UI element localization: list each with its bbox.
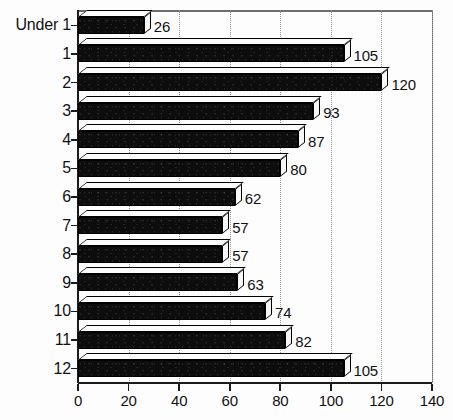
bar-chart: Under 1123456789101112 26105120938780625… — [0, 0, 453, 420]
x-tick-20 — [128, 384, 130, 391]
bar-top-face — [78, 353, 352, 360]
y-tick-11 — [71, 339, 78, 341]
bar-top-face — [78, 267, 246, 274]
y-tick-8 — [71, 253, 78, 255]
bar-side-face — [280, 154, 287, 176]
x-tick-80 — [279, 384, 281, 391]
bar-top-face — [78, 153, 289, 160]
x-tick-label-140: 140 — [409, 392, 453, 409]
y-tick-10 — [71, 311, 78, 313]
bar-value-label-6: 62 — [245, 190, 261, 207]
gridline-140 — [432, 10, 433, 383]
bar-front-face — [78, 131, 298, 148]
y-tick-label-1: 1 — [62, 45, 71, 63]
bar-front-face — [78, 189, 235, 206]
gridline-100 — [331, 10, 332, 383]
bar-value-label-5: 80 — [290, 161, 306, 178]
bar-top-face — [78, 210, 231, 217]
bar-value-label-10: 74 — [275, 304, 291, 321]
y-tick-6 — [71, 196, 78, 198]
bar-side-face — [344, 40, 351, 62]
bar-front-face — [78, 274, 237, 291]
bar-front-face — [78, 360, 344, 377]
y-tick-label-7: 7 — [62, 217, 71, 235]
bar-front-face — [78, 246, 222, 263]
y-tick-5 — [71, 168, 78, 170]
bar-top-face — [78, 10, 153, 17]
x-tick-140 — [431, 384, 433, 391]
x-tick-60 — [229, 384, 231, 391]
y-tick-label-0: Under 1 — [15, 16, 71, 34]
bar-side-face — [381, 69, 388, 91]
bar-front-face — [78, 217, 222, 234]
bar-side-face — [222, 240, 229, 262]
x-tick-100 — [330, 384, 332, 391]
bar-value-label-1: 105 — [354, 47, 378, 64]
bar-side-face — [313, 97, 320, 119]
y-tick-label-4: 4 — [62, 131, 71, 149]
bar-value-label-2: 120 — [391, 76, 415, 93]
x-tick-label-0: 0 — [55, 392, 101, 409]
y-tick-9 — [71, 282, 78, 284]
y-tick-7 — [71, 225, 78, 227]
y-tick-label-10: 10 — [54, 302, 71, 320]
y-tick-4 — [71, 139, 78, 141]
y-tick-12 — [71, 368, 78, 370]
bar-front-face — [78, 103, 313, 120]
y-tick-3 — [71, 110, 78, 112]
bar-value-label-3: 93 — [323, 104, 339, 121]
bar-side-face — [344, 355, 351, 377]
y-tick-label-9: 9 — [62, 274, 71, 292]
y-tick-label-3: 3 — [62, 102, 71, 120]
bar-front-face — [78, 74, 381, 91]
x-tick-label-20: 20 — [106, 392, 152, 409]
bar-top-face — [78, 325, 294, 332]
bar-front-face — [78, 303, 265, 320]
bar-top-face — [78, 296, 274, 303]
y-tick-2 — [71, 82, 78, 84]
bar-value-label-8: 57 — [232, 247, 248, 264]
bar-value-label-7: 57 — [232, 219, 248, 236]
bar-top-face — [78, 124, 307, 131]
x-tick-0 — [77, 384, 79, 391]
bar-value-label-4: 87 — [308, 133, 324, 150]
bar-side-face — [265, 297, 272, 319]
bar-front-face — [78, 160, 280, 177]
bar-side-face — [222, 212, 229, 234]
bar-side-face — [285, 326, 292, 348]
bar-side-face — [144, 11, 151, 33]
bar-front-face — [78, 332, 285, 349]
x-tick-label-120: 120 — [358, 392, 404, 409]
bar-top-face — [78, 67, 390, 74]
bar-value-label-12: 105 — [354, 362, 378, 379]
gridline-120 — [381, 10, 382, 383]
bar-value-label-0: 26 — [154, 18, 170, 35]
bar-side-face — [237, 269, 244, 291]
y-tick-label-6: 6 — [62, 188, 71, 206]
y-tick-label-8: 8 — [62, 245, 71, 263]
x-tick-label-60: 60 — [207, 392, 253, 409]
y-tick-label-12: 12 — [54, 360, 71, 378]
x-tick-label-100: 100 — [308, 392, 354, 409]
x-tick-40 — [178, 384, 180, 391]
bar-top-face — [78, 38, 352, 45]
y-tick-label-5: 5 — [62, 159, 71, 177]
bar-front-face — [78, 17, 144, 34]
x-tick-label-80: 80 — [257, 392, 303, 409]
y-tick-0 — [71, 25, 78, 27]
bar-top-face — [78, 96, 322, 103]
bar-value-label-11: 82 — [295, 333, 311, 350]
x-tick-120 — [381, 384, 383, 391]
bar-top-face — [78, 182, 244, 189]
bar-front-face — [78, 45, 344, 62]
bar-top-face — [78, 239, 231, 246]
y-tick-label-2: 2 — [62, 74, 71, 92]
y-tick-label-11: 11 — [55, 331, 71, 349]
x-axis-line — [78, 382, 432, 384]
bar-side-face — [298, 126, 305, 148]
bar-value-label-9: 63 — [247, 276, 263, 293]
x-tick-label-40: 40 — [156, 392, 202, 409]
y-tick-1 — [71, 53, 78, 55]
